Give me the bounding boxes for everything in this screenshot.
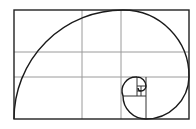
- golden-rectangle-frame: [14, 10, 189, 119]
- golden-squares: [123, 77, 146, 119]
- thirds-grid: [14, 10, 189, 119]
- golden-spiral: [14, 10, 189, 119]
- golden-spiral-diagram: [0, 0, 196, 129]
